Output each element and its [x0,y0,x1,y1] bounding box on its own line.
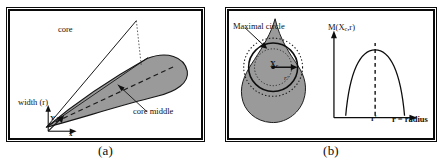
label-core: core [58,25,73,34]
label-width-r: width (r) [18,98,48,107]
panel-a [8,9,203,140]
label-plot-y-axis-tail: ,r) [347,22,355,32]
figure-container: core core middle width (r) Y x (a) [0,0,447,167]
label-circle-radius: r' [284,75,288,82]
label-axis-x: x [69,131,73,138]
label-plot-y-axis-head: M(X [328,22,345,32]
label-axis-y: Y [50,115,55,122]
caption-panel-b: (b) [227,143,435,159]
teardrop-shape [241,19,305,123]
label-plot-y-axis-sub: c [345,26,348,32]
label-maximal-circle: Maximal circle [233,22,285,31]
label-plot-y-axis: M(Xc,r) [328,23,355,32]
panel-a-canvas [10,11,201,138]
core-vertical-guide [136,21,141,66]
label-circle-center-main: X [270,60,276,69]
label-core-middle: core middle [133,107,173,116]
label-plot-x-axis: r = radius [392,115,428,124]
label-circle-center-sub: c [276,63,278,69]
caption-panel-a: (a) [8,143,203,159]
label-plot-x-tick: r' [371,115,377,123]
label-circle-center: Xc [270,61,278,69]
